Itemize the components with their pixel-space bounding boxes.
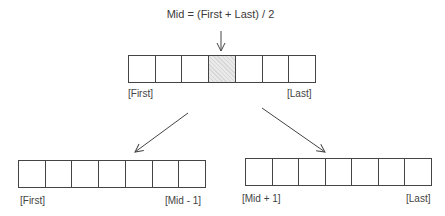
- bottom-left-mid-minus-label: [Mid - 1]: [165, 195, 201, 206]
- array-cell: [263, 56, 290, 82]
- array-cell: [153, 161, 180, 187]
- array-cell-mid: [209, 56, 236, 82]
- array-cell: [299, 159, 326, 185]
- array-cell: [405, 159, 431, 185]
- bottom-right-array: [245, 158, 432, 186]
- bottom-left-array: [18, 160, 206, 188]
- array-cell: [99, 161, 126, 187]
- left-split-arrow-icon: [135, 113, 188, 152]
- array-cell: [179, 161, 205, 187]
- array-cell: [273, 159, 300, 185]
- array-cell: [19, 161, 46, 187]
- top-last-label: [Last]: [287, 88, 311, 99]
- array-cell: [126, 161, 153, 187]
- bottom-right-last-label: [Last]: [406, 193, 430, 204]
- array-cell: [182, 56, 209, 82]
- top-array: [128, 55, 316, 83]
- array-cell: [289, 56, 315, 82]
- array-cell: [156, 56, 183, 82]
- array-cell: [246, 159, 273, 185]
- array-cell: [46, 161, 73, 187]
- top-first-label: [First]: [128, 88, 153, 99]
- array-cell: [72, 161, 99, 187]
- array-cell: [326, 159, 353, 185]
- right-split-arrow-icon: [262, 108, 325, 152]
- bottom-left-first-label: [First]: [20, 195, 45, 206]
- array-cell: [129, 56, 156, 82]
- array-cell: [379, 159, 406, 185]
- array-cell: [352, 159, 379, 185]
- bottom-right-mid-plus-label: [Mid + 1]: [242, 193, 281, 204]
- array-cell: [236, 56, 263, 82]
